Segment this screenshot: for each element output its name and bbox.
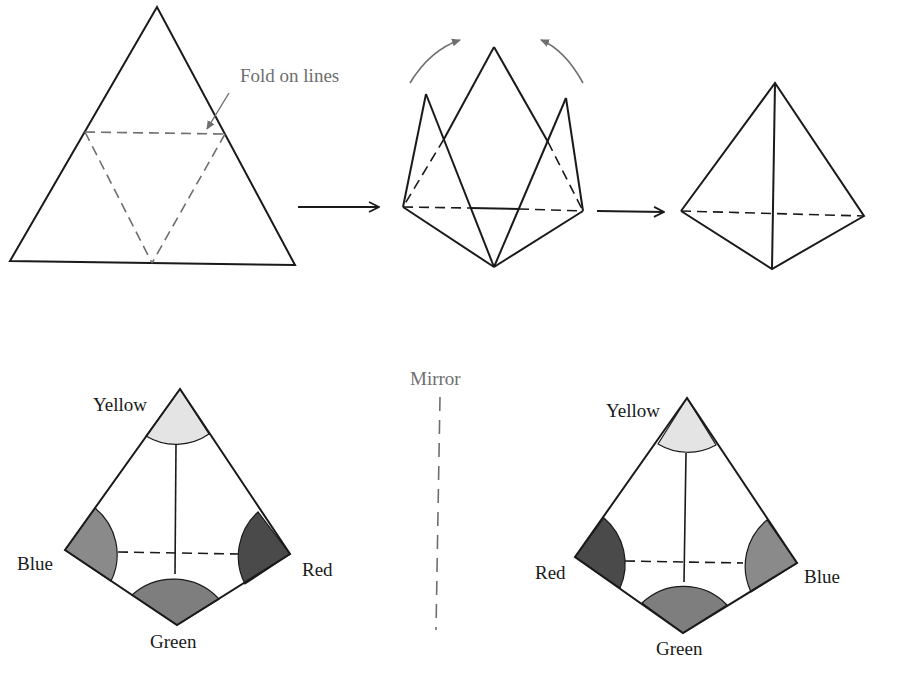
right-label-yellow: Yellow xyxy=(606,400,660,421)
right-blue-cap xyxy=(745,520,797,592)
left-label-yellow: Yellow xyxy=(93,394,147,415)
fold-on-lines-label: Fold on lines xyxy=(240,65,339,86)
left-colored-tetrahedron xyxy=(65,389,290,625)
left-label-green: Green xyxy=(150,631,197,652)
folding-stage xyxy=(403,40,583,267)
step-arrow-2 xyxy=(597,211,664,212)
fold-annotation: Fold on lines xyxy=(207,65,339,129)
right-green-cap xyxy=(642,586,727,633)
folded-tetrahedron xyxy=(681,83,864,269)
fold-up-arrow-left xyxy=(410,40,460,83)
left-green-cap xyxy=(132,579,219,625)
left-red-cap xyxy=(238,512,290,584)
right-red-cap xyxy=(575,518,625,588)
mirror-label: Mirror xyxy=(410,368,461,389)
fold-pointer-arrow xyxy=(207,93,229,129)
fold-up-arrow-right xyxy=(541,40,583,83)
mirror-line xyxy=(436,397,440,630)
left-blue-cap xyxy=(65,508,117,581)
right-label-green: Green xyxy=(656,638,703,659)
flat-triangle-net xyxy=(10,7,295,265)
mirror-divider: Mirror xyxy=(410,368,461,630)
right-colored-tetrahedron xyxy=(575,398,797,633)
right-label-blue: Blue xyxy=(804,566,840,587)
left-label-red: Red xyxy=(302,559,333,580)
right-label-red: Red xyxy=(535,562,566,583)
tetrahedron-diagram: Fold on lines Mirror xyxy=(0,0,898,674)
left-label-blue: Blue xyxy=(17,553,53,574)
